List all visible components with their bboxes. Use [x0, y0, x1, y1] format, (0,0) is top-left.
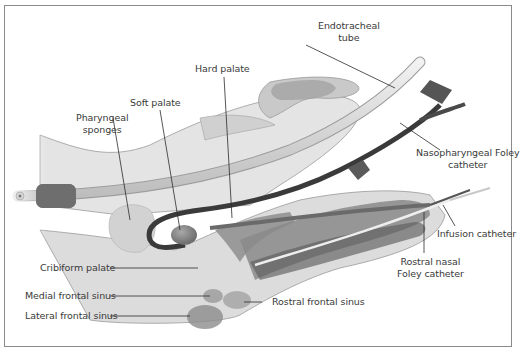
label-line: Endotracheal [318, 20, 380, 32]
label-line: catheter [416, 159, 520, 171]
lateral-frontal-sinus-shape [187, 305, 223, 329]
foley-balloon [171, 225, 197, 245]
label-lateral-frontal-sinus: Lateral frontal sinus [25, 310, 118, 322]
rostral-frontal-sinus-shape [223, 291, 251, 309]
label-hard-palate: Hard palate [195, 63, 250, 75]
label-cribiform-palate: Cribiform palate [40, 262, 115, 274]
label-infusion-catheter: Infusion catheter [437, 228, 516, 240]
label-endotracheal-tube: Endotracheal tube [318, 20, 380, 44]
label-line: Rostral nasal [397, 256, 464, 268]
label-line: Pharyngeal [76, 112, 128, 124]
label-line: sponges [76, 124, 128, 136]
label-rostral-frontal-sinus: Rostral frontal sinus [272, 296, 365, 308]
label-rostral-nasal-foley-catheter: Rostral nasal Foley catheter [397, 256, 464, 280]
label-line: tube [318, 32, 380, 44]
label-medial-frontal-sinus: Medial frontal sinus [25, 290, 116, 302]
label-line: Nasopharyngeal Foley [416, 147, 520, 159]
label-pharyngeal-sponges: Pharyngeal sponges [76, 112, 128, 136]
label-nasopharyngeal-foley-catheter: Nasopharyngeal Foley catheter [416, 147, 520, 171]
label-soft-palate: Soft palate [130, 97, 181, 109]
label-line: Foley catheter [397, 268, 464, 280]
